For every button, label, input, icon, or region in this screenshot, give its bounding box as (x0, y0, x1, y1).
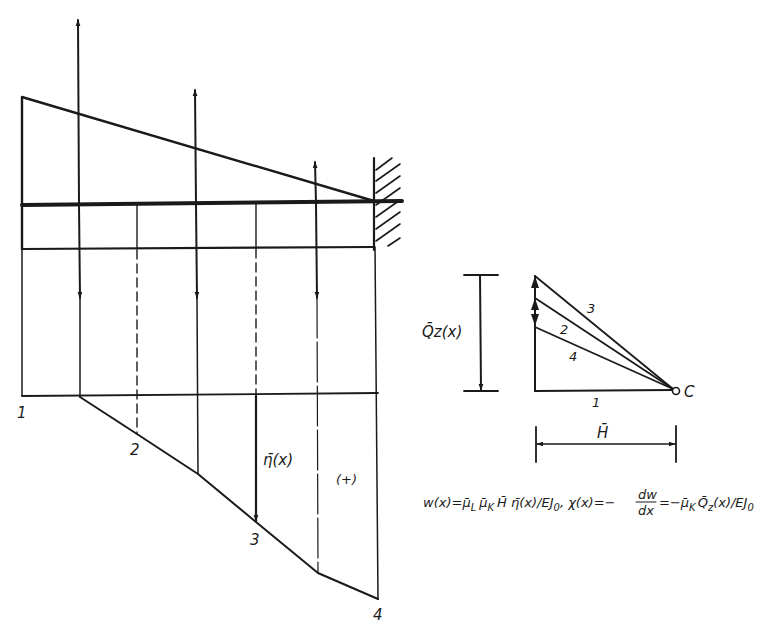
load-arrow-1 (78, 20, 80, 298)
qz-label: Q̄z(x) (422, 322, 462, 341)
qz-arrow (480, 275, 481, 390)
beam-diagram (22, 20, 402, 298)
load-arrow-2 (195, 90, 197, 298)
svg-text:dw: dw (638, 487, 657, 502)
ray-label-2: 2 (560, 322, 568, 337)
h-label: H̄ (597, 423, 608, 442)
influence-line-diagram: 1 2 3 4 η̄(x) (+) Q̄z(x) C 3 2 4 1 H̄ (0, 0, 770, 634)
point-label-4: 4 (373, 606, 383, 624)
closing-line (22, 393, 378, 396)
ray-1 (535, 390, 672, 391)
ray-label-1: 1 (592, 395, 600, 410)
ray-2 (535, 298, 673, 389)
sign-label: (+) (336, 472, 357, 487)
pole-label: C (684, 383, 695, 401)
ray-label-3: 3 (587, 301, 595, 316)
ray-4 (535, 327, 673, 389)
beam-lower-edge (22, 247, 374, 249)
funicular-polygon: 1 2 3 4 η̄(x) (+) (17, 247, 383, 624)
point-label-3: 3 (250, 531, 260, 549)
point-label-2: 2 (130, 441, 140, 459)
pole-c-icon (673, 388, 680, 395)
load-distribution-outline (22, 97, 374, 249)
svg-text:w(x)=μ̄Lμ̄KH̄ η̄(x)/EJ0, χ(x)=: w(x)=μ̄Lμ̄KH̄ η̄(x)/EJ0, χ(x)=− (423, 495, 615, 513)
eta-label: η̄(x) (263, 451, 293, 469)
ray-label-4: 4 (569, 349, 577, 364)
svg-text:=−μ̄KQ̄z(x)/EJ0: =−μ̄KQ̄z(x)/EJ0 (659, 495, 754, 513)
load-arrow-3 (315, 162, 317, 298)
ray-3 (535, 276, 673, 389)
deflection-curve (80, 397, 378, 599)
fixed-support-icon (374, 158, 400, 250)
deflection-formula: w(x)=μ̄Lμ̄KH̄ η̄(x)/EJ0, χ(x)=− dw dx =−… (423, 487, 754, 518)
svg-text:dx: dx (638, 503, 654, 518)
force-polygon: Q̄z(x) C 3 2 4 1 H̄ (422, 275, 695, 462)
point-label-1: 1 (17, 404, 27, 422)
